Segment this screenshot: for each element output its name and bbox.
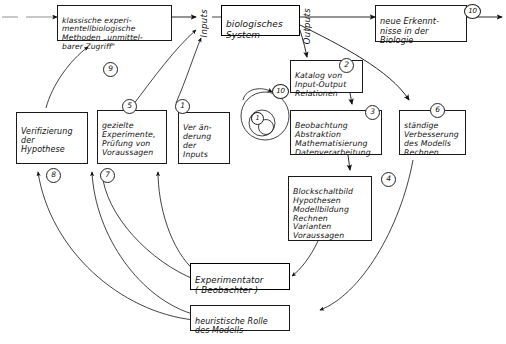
- badge-3: 3: [365, 105, 380, 120]
- badge-4: 4: [381, 172, 396, 187]
- badge-6: 6: [430, 103, 445, 118]
- box-klassische-methoden[interactable]: klassische experi- mentellbiologische Me…: [57, 5, 172, 41]
- badge-7: 7: [100, 168, 115, 183]
- box-katalog-text: Katalog von Input-Output Relationen: [295, 72, 359, 99]
- badge-2: 2: [339, 58, 354, 73]
- box-staendige-verbesserung-text: ständige Verbesserung des Modells Rechne…: [404, 122, 462, 158]
- badge-10-spiral: 10: [272, 84, 289, 99]
- box-heuristische-rolle[interactable]: heuristische Rolle des Modells: [190, 305, 290, 331]
- box-beobachtung-text: Beobachtung Abstraktion Mathematisierung…: [295, 122, 378, 158]
- box-verifizierung[interactable]: Verifizierung der Hypothese: [16, 112, 88, 164]
- box-blockschaltbild[interactable]: Blockschaltbild Hypothesen Modellbildung…: [288, 176, 372, 241]
- badge-9: 9: [103, 62, 118, 77]
- box-gezielte-experimente[interactable]: gezielte Experimente, Prüfung von Voraus…: [97, 110, 167, 164]
- badge-8: 8: [46, 168, 61, 183]
- badge-5: 5: [122, 99, 137, 114]
- box-veraenderung-inputs-text: Ver än- derung der Inputs: [183, 124, 226, 160]
- badge-1: 1: [175, 99, 190, 114]
- box-experimentator[interactable]: Experimentator ( Beobachter ): [190, 263, 290, 290]
- badge-10-top: 10: [464, 4, 481, 19]
- box-biologisches-system-text: biologisches System: [226, 19, 296, 40]
- box-veraenderung-inputs[interactable]: Ver än- derung der Inputs: [178, 112, 230, 164]
- box-neue-erkenntnisse[interactable]: neue Erkennt- nisse in der Biologie: [375, 5, 467, 42]
- label-inputs: Inputs: [199, 9, 209, 37]
- box-heuristische-rolle-text: heuristische Rolle des Modells: [195, 317, 286, 335]
- box-neue-erkenntnisse-text: neue Erkennt- nisse in der Biologie: [380, 17, 463, 45]
- diagram-canvas: klassische experi- mentellbiologische Me…: [0, 0, 506, 344]
- box-klassische-methoden-text: klassische experi- mentellbiologische Me…: [62, 17, 168, 52]
- box-blockschaltbild-text: Blockschaltbild Hypothesen Modellbildung…: [293, 188, 368, 241]
- box-verifizierung-text: Verifizierung der Hypothese: [21, 127, 84, 154]
- label-outputs: Outputs: [302, 8, 312, 44]
- badge-1-spiral: 1: [251, 112, 264, 125]
- box-biologisches-system[interactable]: biologisches System: [221, 5, 300, 36]
- box-experimentator-text: Experimentator ( Beobachter ): [195, 276, 286, 296]
- box-gezielte-experimente-text: gezielte Experimente, Prüfung von Voraus…: [102, 122, 163, 158]
